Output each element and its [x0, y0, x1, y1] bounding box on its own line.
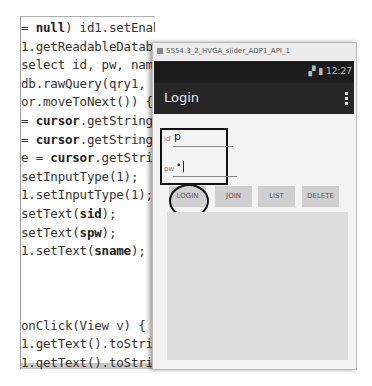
code-line: 1.getReadableDatabase() — [21, 39, 155, 54]
pw-label: pw — [164, 165, 174, 173]
code-line: select id, pw, name f — [21, 57, 155, 72]
status-bar: ▞ ▮ 12:27 — [154, 61, 354, 83]
code-line: db.rawQuery(qry1, nul — [21, 76, 155, 91]
login-content: id p pw • LOGIN JOIN LIST DELETE — [154, 114, 354, 368]
code-line: 1.getText().toString() — [21, 355, 155, 369]
id-underline — [173, 146, 233, 147]
code-line: onClick(View v) { — [21, 318, 146, 333]
code-line: setText(spw); — [21, 225, 116, 240]
emulator-title-bar[interactable]: 5554:3_2_HVGA_slider_ADP1_API_1 — [153, 43, 356, 60]
code-line: e = cursor.getString(2) — [21, 150, 155, 165]
code-line: 1.getText().toString(); — [21, 336, 155, 351]
action-bar: Login — [154, 83, 354, 114]
code-editor: = null) id1.setEnabled(false);1.getReada… — [20, 16, 155, 369]
code-line: = null) id1.setEnabled(false); — [21, 20, 155, 35]
window-title: 5554:3_2_HVGA_slider_ADP1_API_1 — [166, 47, 290, 55]
code-line: or.moveToNext()) { — [21, 94, 153, 109]
overflow-menu-icon[interactable] — [345, 92, 348, 105]
code-line: = cursor.getString(1); — [21, 132, 155, 147]
text-cursor — [183, 161, 184, 172]
result-list[interactable] — [167, 212, 348, 360]
list-button[interactable]: LIST — [258, 186, 295, 207]
code-line: 1.setInputType(1); — [21, 187, 153, 202]
emulator-window: 5554:3_2_HVGA_slider_ADP1_API_1 ▞ ▮ 12:2… — [152, 42, 357, 370]
join-button[interactable]: JOIN — [215, 186, 252, 207]
signal-icon: ▞ — [308, 66, 315, 76]
code-line: setText(sid); — [21, 206, 116, 221]
pw-underline — [173, 176, 237, 177]
id-input[interactable]: p — [174, 130, 181, 143]
battery-icon: ▮ — [318, 66, 323, 76]
code-line: = cursor.getString(0); — [21, 113, 155, 128]
pw-input[interactable]: • — [176, 160, 181, 170]
code-line: 1.setText(sname); — [21, 243, 146, 258]
id-label: id — [164, 135, 170, 143]
code-line: setInputType(1); — [21, 169, 138, 184]
action-bar-title: Login — [164, 90, 199, 105]
status-time: 12:27 — [326, 66, 352, 76]
window-icon — [157, 48, 163, 54]
delete-button[interactable]: DELETE — [302, 186, 339, 207]
